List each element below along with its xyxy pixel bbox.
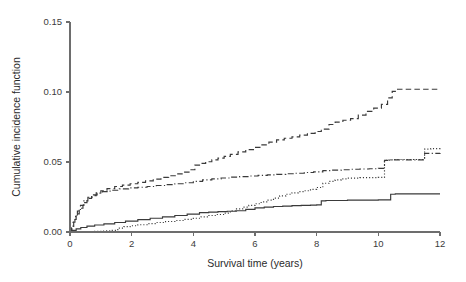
- x-tick-label: 8: [314, 238, 319, 249]
- cumulative-incidence-chart: 0.000.050.100.15024681012Survival time (…: [0, 0, 466, 282]
- y-axis-title: Cumulative incidence function: [10, 57, 22, 197]
- y-tick-label: 0.10: [44, 86, 63, 97]
- axis-labels-group: 0.000.050.100.15024681012Survival time (…: [10, 16, 445, 269]
- curve-solid: [70, 194, 440, 232]
- axes-group: [66, 22, 440, 236]
- x-tick-label: 4: [191, 238, 196, 249]
- x-tick-label: 6: [252, 238, 257, 249]
- x-tick-label: 0: [67, 238, 72, 249]
- chart-canvas: 0.000.050.100.15024681012Survival time (…: [0, 0, 466, 282]
- curves-group: [70, 89, 440, 232]
- x-tick-label: 10: [373, 238, 384, 249]
- x-tick-label: 12: [435, 238, 446, 249]
- y-tick-label: 0.15: [44, 16, 63, 27]
- x-axis-title: Survival time (years): [207, 257, 303, 269]
- y-tick-label: 0.05: [44, 156, 63, 167]
- y-tick-label: 0.00: [44, 226, 63, 237]
- x-tick-label: 2: [129, 238, 134, 249]
